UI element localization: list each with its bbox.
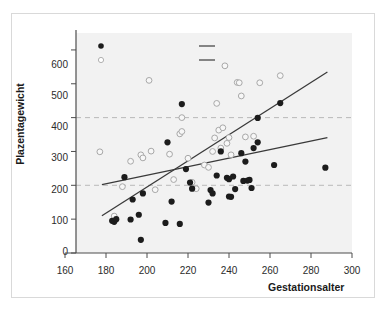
legend-marker-filled-circle [98,43,104,49]
data-point [206,164,212,170]
data-point [222,63,228,69]
data-point [242,159,248,165]
plot-area [0,0,388,316]
data-point [251,145,257,151]
data-point [257,80,263,86]
data-point [136,212,142,218]
data-point [243,134,249,140]
data-point [177,221,183,227]
data-point [130,196,136,202]
data-point [169,198,175,204]
data-point [179,129,185,135]
data-point [255,139,261,145]
data-point [322,165,328,171]
data-point [246,177,252,183]
data-point [214,172,220,178]
data-point [277,73,283,79]
data-point [212,135,218,141]
data-point [277,100,283,106]
y-axis-ticks [71,50,76,253]
data-point [189,186,195,192]
data-point [214,101,220,107]
data-point [138,237,144,243]
data-point [185,155,191,161]
x-axis-ticks [65,253,352,258]
data-point [230,173,236,179]
data-point [210,149,216,155]
legend-marker-open-circle [98,57,103,62]
data-point [236,80,242,86]
data-point [232,186,238,192]
data-point [113,216,119,222]
data-point [128,216,134,222]
data-point [128,158,134,164]
data-point [251,133,257,139]
data-point [255,115,261,121]
data-point [248,185,254,191]
data-point [183,166,189,172]
data-point [224,140,230,146]
data-point [228,194,234,200]
data-point [179,115,185,121]
data-point [167,151,173,157]
data-point [164,139,170,145]
data-point [226,135,232,141]
figure-container: Plazentagewicht Gestationsalter 600 500 … [0,0,388,316]
data-point [179,101,185,107]
data-point [121,174,127,180]
data-point [228,152,234,158]
data-point [148,148,154,154]
data-point [152,187,158,193]
data-point [210,190,216,196]
data-point [140,155,146,161]
data-point [238,93,244,99]
data-point [146,77,152,83]
data-point [162,220,168,226]
data-point [205,199,211,205]
data-point [187,180,193,186]
data-point [120,184,126,190]
data-point [171,177,177,183]
data-point [218,148,224,154]
data-point [238,150,244,156]
data-point [140,190,146,196]
data-point [220,125,226,131]
data-point [271,162,277,168]
data-point [97,149,103,155]
